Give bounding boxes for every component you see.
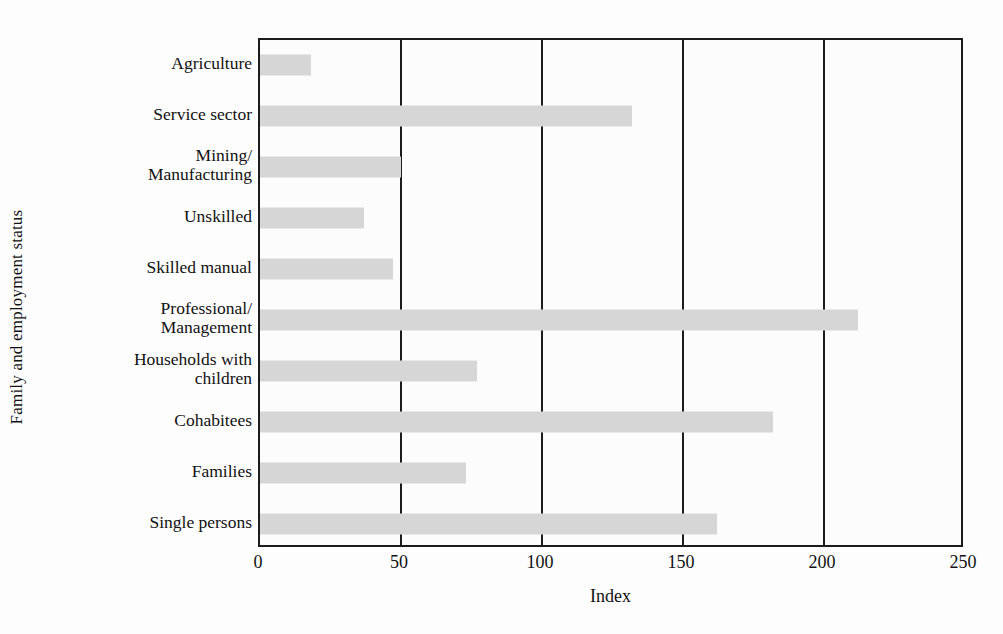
x-axis-tick-labels: 050100150200250 <box>258 552 963 578</box>
gridline-150 <box>682 40 684 545</box>
y-tick-label: Cohabitees <box>40 410 252 429</box>
y-tick-label: Professional/Management <box>40 299 252 337</box>
x-tick-label: 250 <box>950 552 977 573</box>
y-axis-title: Family and employment status <box>0 0 34 634</box>
y-tick-label: Skilled manual <box>40 258 252 277</box>
x-tick-label: 100 <box>527 552 554 573</box>
x-tick-label: 150 <box>668 552 695 573</box>
y-tick-label: Households withchildren <box>40 350 252 388</box>
y-tick-label: Mining/Manufacturing <box>40 146 252 184</box>
bar <box>260 106 632 127</box>
gridline-200 <box>823 40 825 545</box>
plot-area <box>258 38 963 547</box>
y-axis-tick-labels: AgricultureService sectorMining/Manufact… <box>40 38 252 547</box>
bar <box>260 411 773 432</box>
x-tick-label: 50 <box>390 552 408 573</box>
x-axis-title: Index <box>258 586 963 607</box>
bar-chart: Family and employment status Agriculture… <box>0 0 1003 634</box>
bar <box>260 360 477 381</box>
bar <box>260 462 466 483</box>
bar <box>260 259 393 280</box>
y-tick-label: Service sector <box>40 105 252 124</box>
bar <box>260 157 401 178</box>
y-tick-label: Agriculture <box>40 54 252 73</box>
bar <box>260 208 364 229</box>
y-tick-label: Single persons <box>40 512 252 531</box>
y-tick-label: Unskilled <box>40 207 252 226</box>
y-tick-label: Families <box>40 461 252 480</box>
plot-inner <box>260 40 961 545</box>
bar <box>260 513 717 534</box>
bar <box>260 309 858 330</box>
bar <box>260 55 311 76</box>
x-tick-label: 0 <box>254 552 263 573</box>
x-tick-label: 200 <box>809 552 836 573</box>
